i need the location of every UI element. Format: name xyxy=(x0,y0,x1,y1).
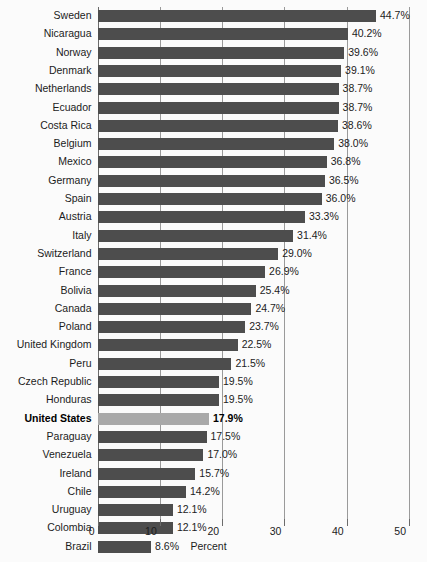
value-label: 44.7% xyxy=(376,7,410,25)
category-label: Bolivia xyxy=(61,282,92,300)
category-label: Costa Rica xyxy=(40,117,91,135)
bar xyxy=(98,321,246,333)
category-label: Italy xyxy=(72,227,91,245)
bar xyxy=(98,339,238,351)
x-tick-label: 40 xyxy=(332,525,347,537)
bar xyxy=(98,120,338,132)
x-tick-mark xyxy=(98,519,99,526)
x-axis-title: Percent xyxy=(0,540,427,552)
value-label: 26.9% xyxy=(265,263,299,281)
bar xyxy=(98,266,266,278)
bar xyxy=(98,248,279,260)
category-label: Venezuela xyxy=(42,446,91,464)
value-label: 12.1% xyxy=(173,501,207,519)
bar-row: Venezuela17.0% xyxy=(98,446,410,464)
value-label: 22.5% xyxy=(238,336,272,354)
bar xyxy=(98,376,219,388)
bar xyxy=(98,486,186,498)
bar xyxy=(98,28,348,40)
value-label: 31.4% xyxy=(293,227,327,245)
bar xyxy=(98,394,219,406)
category-label: United States xyxy=(24,410,91,428)
bar xyxy=(98,468,196,480)
bar-row: Peru21.5% xyxy=(98,355,410,373)
category-label: Mexico xyxy=(58,153,91,171)
category-label: Ecuador xyxy=(52,99,91,117)
bar xyxy=(98,449,204,461)
bar-row: Bolivia25.4% xyxy=(98,282,410,300)
value-label: 29.0% xyxy=(278,245,312,263)
value-label: 39.6% xyxy=(344,44,378,62)
bar-rows: Sweden44.7%Nicaragua40.2%Norway39.6%Denm… xyxy=(98,7,410,519)
x-tick-mark xyxy=(222,519,223,526)
category-label: Austria xyxy=(59,208,92,226)
value-label: 17.0% xyxy=(203,446,237,464)
bar-row: Germany36.5% xyxy=(98,172,410,190)
value-label: 19.5% xyxy=(219,373,253,391)
category-label: Belgium xyxy=(54,135,92,153)
value-label: 36.0% xyxy=(322,190,356,208)
bar xyxy=(98,83,339,95)
bar-row: Costa Rica38.6% xyxy=(98,117,410,135)
value-label: 19.5% xyxy=(219,391,253,409)
bar-row: Ecuador38.7% xyxy=(98,99,410,117)
bar xyxy=(98,65,342,77)
value-label: 17.9% xyxy=(209,410,243,428)
bar-row: Czech Republic19.5% xyxy=(98,373,410,391)
gridline-50 xyxy=(409,7,410,519)
value-label: 23.7% xyxy=(245,318,279,336)
plot-area: Sweden44.7%Nicaragua40.2%Norway39.6%Denm… xyxy=(98,7,410,519)
value-label: 36.8% xyxy=(327,153,361,171)
bar-row: Norway39.6% xyxy=(98,44,410,62)
x-tick-label: 0 xyxy=(89,525,98,537)
bar-row: Netherlands38.7% xyxy=(98,80,410,98)
bar xyxy=(98,230,294,242)
bar-row: Switzerland29.0% xyxy=(98,245,410,263)
category-label: Canada xyxy=(55,300,92,318)
category-label: United Kingdom xyxy=(17,336,92,354)
bar-row: Canada24.7% xyxy=(98,300,410,318)
value-label: 33.3% xyxy=(305,208,339,226)
category-label: Spain xyxy=(65,190,92,208)
category-label: Czech Republic xyxy=(18,373,92,391)
bar-row: Uruguay12.1% xyxy=(98,501,410,519)
x-tick-label: 20 xyxy=(207,525,222,537)
category-label: Denmark xyxy=(49,62,92,80)
category-label: France xyxy=(59,263,92,281)
category-label: Poland xyxy=(59,318,92,336)
bar-row: Mexico36.8% xyxy=(98,153,410,171)
bar-row: Austria33.3% xyxy=(98,208,410,226)
bar xyxy=(98,285,256,297)
bar xyxy=(98,413,210,425)
bar-row: United States17.9% xyxy=(98,410,410,428)
category-label: Ireland xyxy=(59,465,91,483)
bar-row: Poland23.7% xyxy=(98,318,410,336)
bar-chart: Sweden44.7%Nicaragua40.2%Norway39.6%Denm… xyxy=(0,0,427,562)
bar xyxy=(98,431,207,443)
bar xyxy=(98,211,305,223)
category-label: Uruguay xyxy=(52,501,92,519)
category-label: Nicaragua xyxy=(44,25,92,43)
bar-row: Paraguay17.5% xyxy=(98,428,410,446)
value-label: 38.7% xyxy=(339,80,373,98)
bar xyxy=(98,358,232,370)
category-label: Chile xyxy=(68,483,92,501)
value-label: 15.7% xyxy=(195,465,229,483)
bar-row: Italy31.4% xyxy=(98,227,410,245)
category-label: Switzerland xyxy=(37,245,91,263)
bar-row: Belgium38.0% xyxy=(98,135,410,153)
value-label: 38.6% xyxy=(338,117,372,135)
bar xyxy=(98,47,345,59)
value-label: 40.2% xyxy=(348,25,382,43)
value-label: 14.2% xyxy=(186,483,220,501)
bar-row: Ireland15.7% xyxy=(98,465,410,483)
bar-row: France26.9% xyxy=(98,263,410,281)
bar-row: Nicaragua40.2% xyxy=(98,25,410,43)
category-label: Honduras xyxy=(46,391,92,409)
bar xyxy=(98,102,339,114)
x-tick-mark xyxy=(409,519,410,526)
value-label: 24.7% xyxy=(251,300,285,318)
category-label: Peru xyxy=(69,355,91,373)
bar xyxy=(98,504,173,516)
bar-row: Denmark39.1% xyxy=(98,62,410,80)
